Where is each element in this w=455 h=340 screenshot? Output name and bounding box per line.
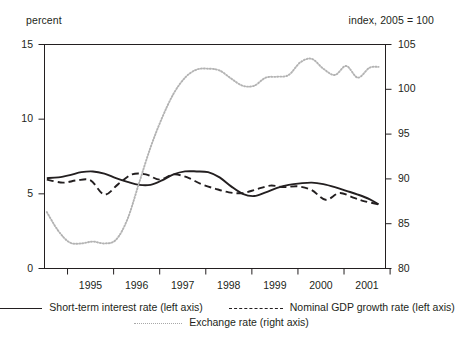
- dashed-line-swatch-icon: [229, 304, 283, 312]
- chart-legend: Short-term interest rate (left axis) Nom…: [0, 300, 443, 330]
- x-axis-tick-label: 1998: [206, 279, 252, 291]
- left-axis-caption: percent: [26, 14, 62, 26]
- x-axis-tick-label: 2000: [298, 279, 344, 291]
- solid-line-swatch-icon: [0, 304, 42, 312]
- legend-label-short-term-interest-rate: Short-term interest rate (left axis): [49, 300, 202, 315]
- x-axis-tick-label: 1997: [160, 279, 206, 291]
- left-axis-tick-label: 15: [11, 38, 33, 50]
- right-axis-tick-label: 105: [398, 38, 424, 50]
- legend-label-exchange-rate: Exchange rate (right axis): [189, 315, 309, 330]
- right-axis-tick-label: 95: [398, 127, 424, 139]
- x-axis-tick-label: 1995: [68, 279, 114, 291]
- left-axis-tick-label: 5: [11, 187, 33, 199]
- right-axis-tick-label: 80: [398, 262, 424, 274]
- legend-item-short-term-interest-rate: Short-term interest rate (left axis): [0, 300, 203, 315]
- left-axis-tick-label: 10: [11, 112, 33, 124]
- legend-label-nominal-gdp-growth-rate: Nominal GDP growth rate (left axis): [290, 300, 455, 315]
- right-axis-tick-label: 85: [398, 217, 424, 229]
- legend-item-exchange-rate: Exchange rate (right axis): [134, 315, 309, 330]
- left-axis-tick-label: 0: [11, 262, 33, 274]
- plot-frame: [45, 45, 386, 269]
- chart-plot-area: [0, 0, 443, 300]
- x-axis-tick-label: 1999: [252, 279, 298, 291]
- right-axis-caption: index, 2005 = 100: [349, 14, 434, 26]
- x-axis-tick-label: 1996: [114, 279, 160, 291]
- right-axis-tick-label: 100: [398, 82, 424, 94]
- dotted-line-swatch-icon: [134, 319, 182, 327]
- legend-item-nominal-gdp-growth-rate: Nominal GDP growth rate (left axis): [229, 300, 455, 315]
- legend-row-primary: Short-term interest rate (left axis) Nom…: [0, 300, 443, 315]
- x-axis-tick-label: 2001: [344, 279, 390, 291]
- legend-row-secondary: Exchange rate (right axis): [0, 315, 443, 330]
- right-axis-tick-label: 90: [398, 172, 424, 184]
